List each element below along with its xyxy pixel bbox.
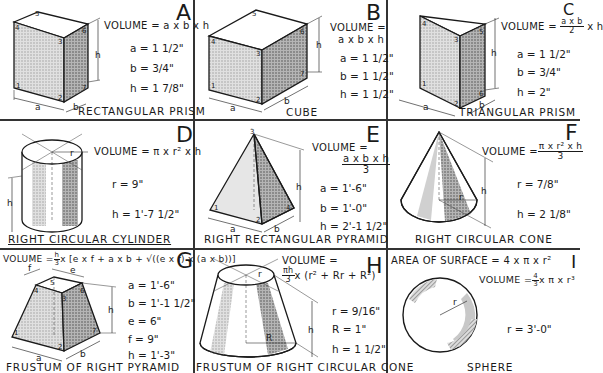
svg-text:6: 6 bbox=[82, 27, 87, 35]
dim-label-b: b bbox=[284, 96, 290, 106]
svg-text:2: 2 bbox=[58, 94, 62, 102]
svg-text:6: 6 bbox=[300, 28, 305, 36]
svg-text:3: 3 bbox=[256, 50, 260, 58]
volume-formula-line1: VOLUME = bbox=[282, 255, 338, 266]
value-h: h = 2 1/8" bbox=[517, 208, 571, 220]
dim-label-r: r bbox=[258, 269, 262, 279]
dim-label-h: h bbox=[316, 40, 322, 50]
value-R: R = 1" bbox=[332, 323, 366, 335]
shape-caption: CUBE bbox=[286, 106, 318, 118]
value-a: a = 1 1/2" bbox=[517, 48, 571, 60]
dim-label-r: r bbox=[459, 192, 463, 202]
value-r: r = 9/16" bbox=[332, 305, 380, 317]
svg-text:1: 1 bbox=[14, 329, 18, 337]
volume-formula: VOLUME =43x π x r³ bbox=[479, 273, 575, 288]
value-h: h = 2" bbox=[517, 86, 551, 98]
formula-prefix: VOLUME = bbox=[501, 21, 557, 32]
svg-text:5: 5 bbox=[252, 10, 256, 18]
shape-caption: SPHERE bbox=[467, 361, 513, 373]
svg-text:1: 1 bbox=[214, 204, 218, 212]
shape-caption: RIGHT RECTANGULAR PYRAMID bbox=[204, 233, 389, 245]
volume-formula: VOLUME = π x r² x h bbox=[94, 146, 201, 157]
value-h: h = 1 1/2" bbox=[332, 343, 386, 355]
shape-caption: RIGHT CIRCULAR CYLINDER bbox=[8, 233, 171, 245]
value-r: r = 3'-0" bbox=[507, 323, 552, 335]
value-b: b = 3/4" bbox=[130, 62, 174, 74]
svg-text:4: 4 bbox=[15, 24, 20, 32]
shape-caption: RIGHT CIRCULAR CONE bbox=[415, 233, 553, 245]
svg-text:4: 4 bbox=[211, 38, 216, 46]
panel-letter-d: D bbox=[176, 124, 193, 146]
svg-text:3: 3 bbox=[250, 128, 254, 136]
rectangular-prism-drawing: h a b 1 2 3 4 5 6 7 bbox=[0, 0, 193, 119]
volume-formula-line1: VOLUME = bbox=[312, 142, 368, 153]
value-r: r = 7/8" bbox=[517, 178, 559, 190]
value-b: b = 1'-1 1/2" bbox=[128, 297, 195, 309]
panel-cube: h a b 1 2 3 4 5 6 7 B VOLUME = a x b x h… bbox=[194, 0, 386, 119]
shape-caption: TRIANGULAR PRISM bbox=[459, 106, 576, 118]
value-h: h = 1 1/2" bbox=[340, 88, 394, 100]
panel-right-circular-cone: h r F VOLUME =π x r² x h3 r = 7/8" h = 2… bbox=[387, 120, 580, 248]
panel-letter-h: H bbox=[366, 255, 383, 277]
shape-caption: FRUSTUM OF RIGHT PYRAMID bbox=[6, 361, 180, 373]
shape-caption: FRUSTUM OF RIGHT CIRCULAR CONE bbox=[196, 361, 414, 373]
dim-label-h: h bbox=[7, 198, 13, 208]
formula-suffix: x h bbox=[587, 21, 603, 32]
volume-formula-line2: πh3x (r² + Rr + R²) bbox=[282, 267, 376, 284]
value-h: h = 1'-3" bbox=[128, 349, 175, 361]
svg-text:1: 1 bbox=[16, 82, 20, 90]
svg-text:3: 3 bbox=[454, 36, 458, 44]
svg-text:5: 5 bbox=[50, 279, 54, 287]
panel-frustum-of-right-pyramid: h a b e f 1 2 3 4 5 6 7 VOLUME =h3x [e x… bbox=[0, 249, 193, 373]
value-b: b = 1'-0" bbox=[320, 202, 367, 214]
panel-letter-g: G bbox=[176, 250, 193, 272]
panel-rectangular-prism: h a b 1 2 3 4 5 6 7 A VOLUME = a x b x h… bbox=[0, 0, 193, 119]
dim-label-h: h bbox=[296, 182, 302, 192]
dim-label-h: h bbox=[95, 50, 101, 60]
dim-label-h: h bbox=[108, 305, 114, 315]
value-b: b = 3/4" bbox=[517, 66, 561, 78]
value-f: f = 9" bbox=[128, 333, 159, 345]
dim-label-a: a bbox=[423, 102, 429, 112]
dim-label-R: R bbox=[266, 333, 272, 343]
value-h: h = 1 7/8" bbox=[130, 82, 184, 94]
svg-text:7: 7 bbox=[82, 84, 86, 92]
svg-text:2: 2 bbox=[256, 216, 260, 224]
dim-label-h: h bbox=[308, 325, 314, 335]
dim-label-a: a bbox=[35, 102, 41, 112]
volume-formula: VOLUME = a x b2 x h bbox=[501, 18, 603, 35]
dim-label-r: r bbox=[453, 297, 457, 307]
dim-label-h: h bbox=[481, 186, 487, 196]
value-r: r = 9" bbox=[112, 178, 143, 190]
value-a: a = 1 1/2" bbox=[130, 42, 184, 54]
shape-caption: RECTANGULAR PRISM bbox=[78, 105, 206, 117]
panel-right-rectangular-pyramid: h a b 1 2 3 4 E VOLUME = a x b x h3 a = … bbox=[194, 120, 386, 248]
svg-text:3: 3 bbox=[58, 38, 62, 46]
formula-fraction: a x b2 bbox=[560, 18, 583, 35]
volume-formula-line1: VOLUME = bbox=[330, 22, 386, 33]
value-b: b = 1 1/2" bbox=[340, 70, 394, 82]
panel-right-circular-cylinder: r h D VOLUME = π x r² x h r = 9" h = 1'-… bbox=[0, 120, 193, 248]
panel-frustum-of-right-circular-cone: r R h VOLUME = πh3x (r² + Rr + R²) H r =… bbox=[194, 249, 386, 373]
value-a: a = 1'-6" bbox=[320, 182, 367, 194]
value-h: h = 2'-1 1/2" bbox=[320, 220, 387, 232]
svg-text:3: 3 bbox=[62, 295, 66, 303]
panel-letter-b: B bbox=[366, 2, 381, 24]
svg-text:7: 7 bbox=[92, 327, 96, 335]
svg-text:6: 6 bbox=[479, 90, 484, 98]
panel-letter-i: I bbox=[571, 253, 576, 271]
surface-area-formula: AREA OF SURFACE = 4 x π x r² bbox=[391, 255, 552, 266]
cylinder-drawing: r h bbox=[0, 120, 193, 248]
panel-sphere: r AREA OF SURFACE = 4 x π x r² I VOLUME … bbox=[387, 249, 580, 373]
svg-text:6: 6 bbox=[80, 287, 85, 295]
svg-text:1: 1 bbox=[211, 82, 215, 90]
value-a: a = 1'-6" bbox=[128, 279, 175, 291]
dim-label-r: r bbox=[70, 148, 74, 158]
panel-letter-e: E bbox=[366, 124, 380, 146]
sphere-drawing: r bbox=[387, 249, 580, 373]
panel-letter-c: C bbox=[563, 2, 574, 18]
dim-label-h: h bbox=[491, 48, 497, 58]
svg-text:4: 4 bbox=[34, 287, 39, 295]
volume-formula: VOLUME =π x r² x h3 bbox=[482, 142, 583, 161]
volume-formula-line2: a x b x h bbox=[338, 34, 384, 45]
